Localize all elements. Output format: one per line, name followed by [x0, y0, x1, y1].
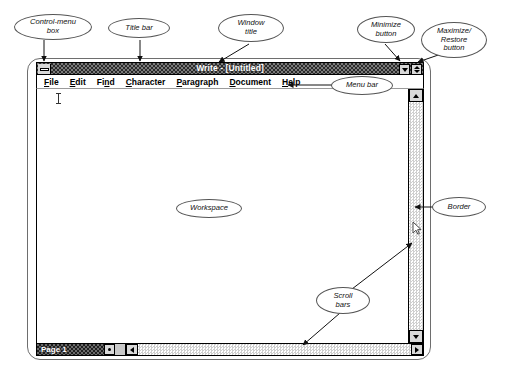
scroll-left-button[interactable]: [126, 344, 138, 355]
menu-item-help[interactable]: Help: [282, 77, 300, 87]
horizontal-scrollbar[interactable]: [125, 344, 423, 355]
arrow-up-icon: [413, 94, 419, 98]
maximize-restore-button[interactable]: [411, 64, 422, 75]
menu-item-file[interactable]: File: [44, 77, 59, 87]
illustration-canvas: Write - [Untitled] File Edit Find Charac…: [0, 0, 508, 378]
scroll-down-button[interactable]: [409, 330, 423, 343]
callout-control-menu-box: Control-menu box: [14, 14, 92, 40]
menu-item-find[interactable]: Find: [97, 77, 115, 87]
arrow-right-icon: [415, 347, 419, 353]
arrow-down-icon: [413, 335, 419, 339]
thumb-dot-icon: [108, 348, 111, 351]
callout-workspace: Workspace: [176, 199, 242, 218]
window-title: Write - [Untitled]: [37, 63, 423, 74]
title-bar[interactable]: Write - [Untitled]: [36, 62, 424, 75]
arrow-left-icon: [130, 347, 134, 353]
window-buttons: [399, 64, 422, 75]
triangle-down-icon: [402, 68, 408, 72]
text-caret-icon: [58, 93, 59, 104]
callout-border: Border: [432, 197, 486, 217]
callout-maximize-restore-button: Maximize/ Restore button: [421, 22, 487, 58]
scroll-right-button[interactable]: [411, 344, 423, 355]
page-scroll-thumb[interactable]: [104, 344, 115, 355]
menu-item-edit[interactable]: Edit: [70, 77, 86, 87]
callout-scroll-bars: Scroll bars: [316, 287, 370, 314]
vertical-scrollbar[interactable]: [408, 89, 423, 343]
callout-title-bar: Title bar: [108, 18, 170, 38]
page-scroll-track[interactable]: [115, 344, 125, 355]
callout-minimize-button: Minimize button: [357, 16, 415, 43]
page-status-area: Page 1: [37, 344, 125, 355]
scroll-up-button[interactable]: [409, 89, 423, 102]
callout-menu-bar: Menu bar: [331, 76, 393, 95]
menu-item-character[interactable]: Character: [126, 77, 166, 87]
callout-window-title: Window title: [218, 14, 284, 42]
bottom-bar: Page 1: [36, 343, 424, 356]
triangle-down-icon: [414, 70, 420, 73]
page-number-label: Page 1: [41, 345, 67, 355]
menu-item-document[interactable]: Document: [229, 77, 271, 87]
triangle-up-icon: [414, 66, 420, 69]
menu-item-paragraph[interactable]: Paragraph: [176, 77, 218, 87]
minimize-button[interactable]: [399, 64, 410, 75]
